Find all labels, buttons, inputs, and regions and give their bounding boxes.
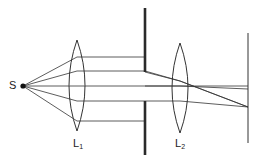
lens-l2-label: L2 xyxy=(175,138,185,150)
source-label: S xyxy=(9,80,16,91)
diffracted-ray xyxy=(145,72,248,107)
light-rays xyxy=(23,57,248,121)
light-ray xyxy=(23,86,248,107)
optics-diagram: S L1 L2 xyxy=(0,0,261,162)
lens-l2-subscript: 2 xyxy=(181,143,185,150)
lens-l1-label: L1 xyxy=(73,138,83,150)
lenses xyxy=(69,40,188,133)
ray-diagram-canvas xyxy=(0,0,261,162)
point-source-dot xyxy=(20,83,25,88)
source-label-text: S xyxy=(9,79,16,91)
lens-l1-subscript: 1 xyxy=(79,143,83,150)
lens-l2 xyxy=(172,43,188,133)
light-ray xyxy=(23,71,248,107)
